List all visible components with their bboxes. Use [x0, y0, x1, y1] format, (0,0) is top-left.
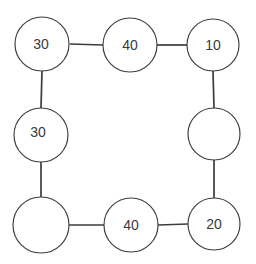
edge-bottom-right-to-bottom-middle: [158, 224, 188, 225]
edge-top-right-to-middle-right: [213, 71, 214, 108]
graph-canvas: 304010204030: [0, 0, 256, 264]
node-bottom-left-circle[interactable]: [13, 197, 69, 253]
node-middle-right[interactable]: [188, 108, 240, 160]
ring-graph-diagram: 304010204030: [0, 0, 256, 264]
node-middle-left[interactable]: 30: [14, 108, 68, 162]
node-bottom-right-label: 20: [206, 216, 222, 232]
edge-middle-left-to-top-left: [41, 71, 42, 108]
node-top-middle[interactable]: 40: [103, 18, 157, 72]
node-layer: 304010204030: [13, 17, 240, 253]
node-top-left[interactable]: 30: [15, 17, 69, 71]
edge-top-left-to-top-middle: [70, 44, 103, 45]
node-middle-left-label: 30: [30, 124, 46, 140]
node-middle-right-circle[interactable]: [188, 108, 240, 160]
node-bottom-right[interactable]: 20: [188, 198, 240, 250]
node-bottom-left[interactable]: [13, 197, 69, 253]
node-top-middle-label: 40: [122, 37, 138, 53]
node-top-right[interactable]: 10: [187, 19, 239, 71]
node-bottom-middle-label: 40: [123, 217, 139, 233]
node-top-right-label: 10: [205, 37, 221, 53]
node-top-left-label: 30: [33, 36, 49, 52]
node-bottom-middle[interactable]: 40: [104, 198, 158, 252]
